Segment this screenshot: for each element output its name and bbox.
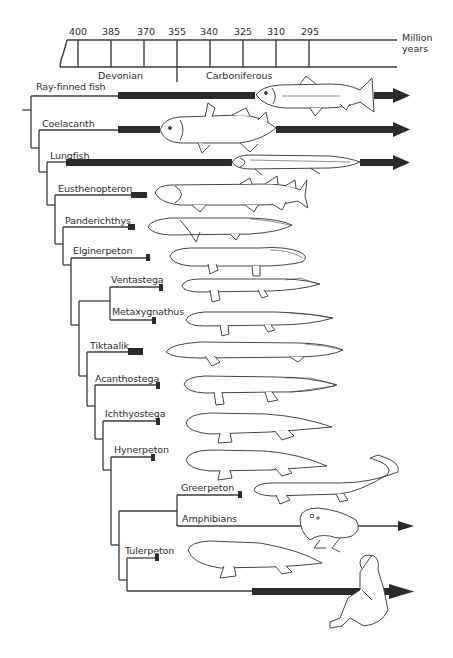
tiktaalik-drawing-icon xyxy=(166,342,343,366)
range-bar-lungfish xyxy=(66,159,232,166)
range-bar-eusthenopteron xyxy=(131,192,147,198)
metaxygnathus-drawing-icon xyxy=(186,312,333,336)
hynerpeton-drawing-icon xyxy=(186,450,327,480)
range-bar-acanthostega xyxy=(156,382,160,389)
eusthenopteron-drawing-icon xyxy=(155,176,308,212)
range-bar-tiktaalik xyxy=(128,348,143,355)
range-bar-hynerpeton xyxy=(151,454,155,461)
range-bar-panderichthys xyxy=(128,224,135,230)
range-bar-ray-finned-fish xyxy=(118,92,255,99)
range-bar-ichthyostega xyxy=(156,418,160,425)
range-bar-coelacanth xyxy=(118,126,160,133)
arrow-coelacanth-icon xyxy=(393,122,410,137)
tulerpeton-drawing-icon xyxy=(188,541,322,578)
panderichthys-drawing-icon xyxy=(148,218,292,242)
timeline xyxy=(60,40,397,82)
range-bar-elginerpeton xyxy=(146,254,150,261)
range-bar-greerpeton xyxy=(238,491,242,498)
frog-drawing-icon xyxy=(300,508,358,552)
ichthyostega-drawing-icon xyxy=(186,413,332,443)
range-bar-tulerpeton xyxy=(155,554,159,561)
coelacanth-drawing-icon xyxy=(160,103,276,153)
arrow-lungfish-icon xyxy=(393,155,410,170)
lungfish-drawing-icon xyxy=(232,155,360,175)
ventastega-drawing-icon xyxy=(182,278,320,302)
timeline-break-edge xyxy=(60,40,67,67)
ray-finned-fish-drawing-icon xyxy=(256,76,374,116)
arrow-amniotes-icon xyxy=(389,584,414,599)
range-bar-ventastega xyxy=(159,284,163,291)
range-bar-metaxygnathus xyxy=(152,317,156,324)
acanthostega-drawing-icon xyxy=(184,376,337,405)
arrow-amphibians-icon xyxy=(398,521,414,531)
diagram-graphics xyxy=(0,0,453,658)
tetrapod-evolution-diagram: 400 385 370 355 340 325 310 295 Million … xyxy=(0,0,453,658)
arrow-ray-finned-fish-icon xyxy=(393,88,410,103)
elginerpeton-drawing-icon xyxy=(170,248,306,277)
